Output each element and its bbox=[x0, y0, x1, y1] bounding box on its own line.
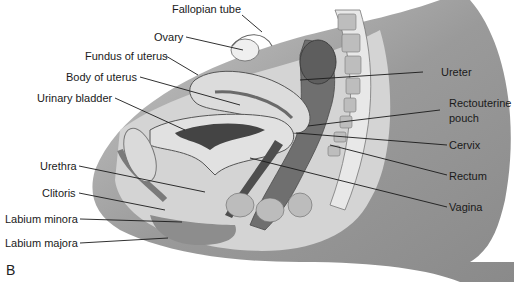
label-body-of-uterus: Body of uterus bbox=[66, 71, 137, 83]
label-rectouterine-pouch-line1: Rectouterine bbox=[449, 97, 511, 109]
label-cervix: Cervix bbox=[449, 139, 480, 151]
label-ureter: Ureter bbox=[441, 66, 472, 78]
panel-label: B bbox=[6, 262, 15, 278]
label-labium-minora: Labium minora bbox=[5, 213, 78, 225]
label-clitoris: Clitoris bbox=[42, 187, 76, 199]
label-rectum: Rectum bbox=[449, 170, 487, 182]
label-fundus-of-uterus: Fundus of uterus bbox=[85, 50, 168, 62]
label-fallopian-tube: Fallopian tube bbox=[172, 3, 241, 15]
label-labium-majora: Labium majora bbox=[5, 237, 78, 249]
label-urinary-bladder: Urinary bladder bbox=[37, 92, 112, 104]
label-ovary: Ovary bbox=[154, 31, 183, 43]
label-urethra: Urethra bbox=[40, 160, 77, 172]
label-vagina: Vagina bbox=[449, 201, 482, 213]
label-rectouterine-pouch-line2: pouch bbox=[449, 112, 479, 124]
